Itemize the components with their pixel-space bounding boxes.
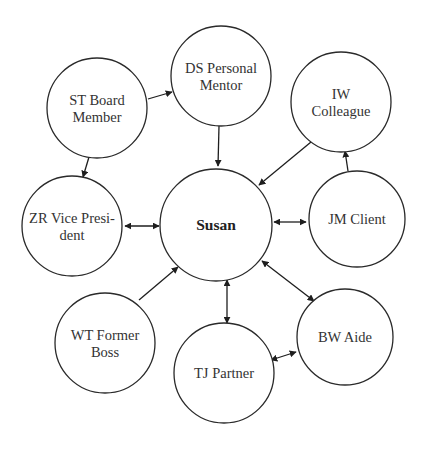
edge-iw-to-susan-arrow [259,142,311,185]
node-ds: DS PersonalMentor [171,26,271,126]
edge-ds-to-susan-arrow [218,126,219,166]
node-susan: Susan [160,169,272,281]
node-label-bw-line-0: BW Aide [318,329,372,345]
node-label-zr-line-1: dent [60,227,85,243]
edge-jm-to-iw-arrow [345,151,348,171]
nodes-layer: SusanST BoardMemberDS PersonalMentorIWCo… [22,26,405,423]
node-label-iw-line-0: IW [332,86,351,102]
node-label-wt-line-0: WT Former [71,327,140,343]
edge-susan-to-bw-bidirectional-arrow [262,261,314,301]
node-bw: BW Aide [297,289,393,385]
node-label-wt-line-1: Boss [91,344,120,360]
node-label-zr-line-0: ZR Vice Presi- [29,210,115,226]
node-label-iw-line-1: Colleague [312,103,371,119]
node-wt: WT FormerBoss [55,293,155,393]
node-label-susan-line-0: Susan [196,216,236,233]
node-label-ds-line-0: DS Personal [185,60,257,76]
edge-wt-to-susan-arrow [139,267,178,300]
node-iw: IWColleague [291,52,391,152]
edge-st-to-zr-arrow [83,157,89,177]
node-label-jm-line-0: JM Client [328,211,386,227]
edge-tj-to-bw-bidirectional-arrow [271,352,296,360]
node-label-tj-line-0: TJ Partner [194,365,254,381]
node-st: ST BoardMember [47,58,147,158]
node-label-st-line-1: Member [72,109,121,125]
node-label-ds-line-1: Mentor [200,77,243,93]
edge-st-to-ds-arrow [148,92,172,99]
node-label-st-line-0: ST Board [69,92,125,108]
node-jm: JM Client [309,171,405,267]
node-tj: TJ Partner [174,323,274,423]
relationship-diagram: SusanST BoardMemberDS PersonalMentorIWCo… [0,0,427,451]
node-zr: ZR Vice Presi-dent [22,176,122,276]
